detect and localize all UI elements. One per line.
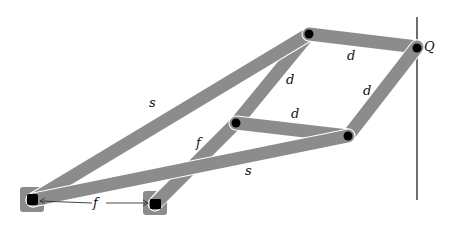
joint-q-icon	[413, 44, 422, 53]
label-s-upper: s	[149, 95, 156, 110]
joint-d-icon	[232, 119, 241, 128]
fixed-pivot-a-icon	[27, 194, 38, 205]
label-f-ground: f	[92, 195, 100, 210]
link-group	[33, 34, 417, 204]
label-d-top: d	[347, 48, 355, 63]
label-q-point: Q	[424, 39, 435, 54]
link-qe-d	[348, 47, 417, 136]
label-s-lower: s	[245, 163, 252, 178]
fixed-pivot-b-icon	[150, 199, 161, 209]
joint-e-icon	[344, 132, 353, 141]
label-d-left: d	[286, 72, 294, 87]
linkage-diagram: s s f f d d d d Q	[0, 0, 453, 225]
label-d-inner: d	[291, 106, 299, 121]
label-d-right: d	[363, 83, 371, 98]
link-cq-d	[309, 34, 417, 47]
joint-c-icon	[305, 30, 314, 39]
